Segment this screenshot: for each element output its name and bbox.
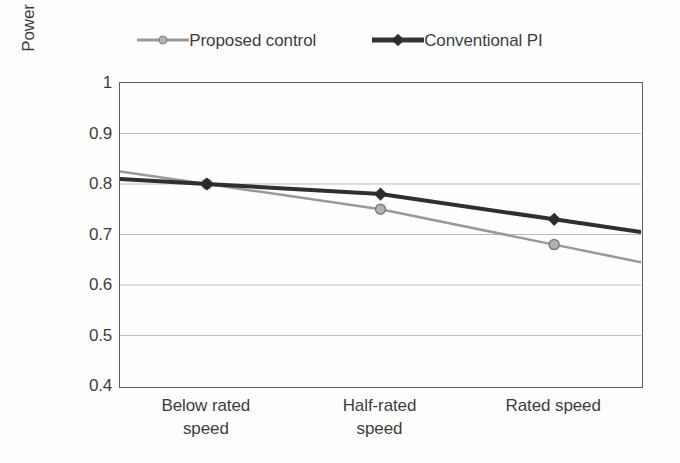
x-axis-tick-label-line: speed bbox=[292, 417, 467, 440]
circle-marker-icon bbox=[549, 240, 559, 250]
legend-entry-proposed-control: Proposed control bbox=[137, 31, 316, 49]
x-axis-tick-label-line: Rated speed bbox=[466, 394, 641, 417]
plot-area bbox=[119, 82, 643, 388]
legend-key-conventional-pi bbox=[372, 31, 424, 49]
chart-legend: Proposed control Conventional PI bbox=[0, 20, 680, 60]
diamond-marker-icon bbox=[392, 34, 405, 47]
y-axis-tick-label: 1 bbox=[54, 74, 112, 91]
y-axis-tick-labels: 10.90.80.70.60.50.4 bbox=[54, 82, 112, 388]
y-axis-tick-label: 0.7 bbox=[54, 225, 112, 242]
x-axis-tick-label: Rated speed bbox=[466, 394, 641, 417]
x-axis-tick-label-line: Half-rated bbox=[292, 394, 467, 417]
diamond-marker-icon bbox=[375, 189, 386, 200]
legend-entry-conventional-pi: Conventional PI bbox=[372, 31, 543, 49]
power-requirement-line-chart: Proposed control Conventional PI Power r… bbox=[0, 0, 680, 463]
y-axis-tick-label: 0.8 bbox=[54, 175, 112, 192]
legend-key-proposed-control bbox=[137, 31, 189, 49]
plot-canvas bbox=[120, 83, 641, 386]
y-axis-tick-label: 0.6 bbox=[54, 276, 112, 293]
circle-marker-icon bbox=[159, 36, 168, 45]
x-axis-tick-label: Below ratedspeed bbox=[118, 394, 293, 440]
x-axis-tick-label: Half-ratedspeed bbox=[292, 394, 467, 440]
y-axis-title: Power requirement (p.u.) bbox=[14, 0, 44, 112]
y-axis-tick-label: 0.9 bbox=[54, 124, 112, 141]
y-axis-tick-label: 0.5 bbox=[54, 326, 112, 343]
circle-marker-icon bbox=[376, 204, 386, 214]
legend-label-conventional-pi: Conventional PI bbox=[424, 32, 543, 49]
diamond-marker-icon bbox=[549, 214, 560, 225]
x-axis-tick-labels: Below ratedspeedHalf-ratedspeedRated spe… bbox=[119, 394, 643, 456]
legend-label-proposed-control: Proposed control bbox=[189, 32, 316, 49]
y-axis-tick-label: 0.4 bbox=[54, 377, 112, 394]
x-axis-tick-label-line: Below rated bbox=[118, 394, 293, 417]
x-axis-tick-label-line: speed bbox=[118, 417, 293, 440]
